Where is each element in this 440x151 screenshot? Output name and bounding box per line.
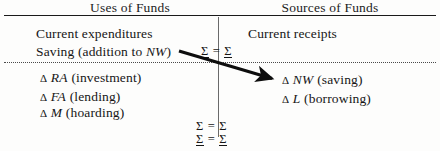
saving-label-symbol: NW [146, 44, 167, 59]
delta-icon: Δ [282, 93, 289, 105]
sigma-equation-top: Σ=Σ [201, 45, 232, 58]
list-item: Δ L (borrowing) [282, 91, 371, 107]
saving-label-suffix: ) [166, 44, 171, 59]
delta-icon: Δ [40, 72, 47, 84]
right-current-receipts-label: Current receipts [248, 26, 337, 41]
list-item: Δ NW (saving) [282, 72, 363, 88]
item-note: (borrowing) [304, 91, 371, 106]
uses-of-funds-header: Uses of Funds [40, 0, 220, 15]
item-symbol: NW [293, 72, 314, 87]
sigma-right: Σ [219, 133, 227, 146]
list-item: Δ RA (investment) [40, 70, 141, 86]
left-current-expenditures-label: Current expenditures [36, 26, 153, 41]
item-note: (investment) [71, 70, 141, 85]
header-horizontal-rule [4, 15, 436, 16]
relation-sign: = [204, 133, 220, 146]
item-symbol: L [293, 91, 301, 106]
sigma-equation-bottom-second: Σ=Σ [196, 133, 227, 146]
sigma-left: Σ [201, 45, 209, 58]
middle-dotted-rule [4, 62, 436, 63]
item-note: (lending) [70, 89, 121, 104]
list-item: Δ FA (lending) [40, 89, 121, 105]
sigma-right: Σ [219, 119, 227, 133]
list-item: Δ M (hoarding) [40, 105, 124, 121]
delta-icon: Δ [282, 74, 289, 86]
delta-icon: Δ [40, 91, 47, 103]
item-symbol: FA [51, 89, 66, 104]
delta-icon: Δ [40, 107, 47, 119]
sigma-left: Σ [196, 119, 204, 133]
left-saving-label: Saving (addition to NW) [36, 44, 171, 59]
sources-and-uses-of-funds-diagram: Uses of Funds Sources of Funds Current e… [0, 0, 440, 151]
item-note: (saving) [317, 72, 362, 87]
relation-sign: = [209, 45, 225, 58]
sigma-left: Σ [196, 133, 204, 146]
sources-of-funds-header: Sources of Funds [240, 0, 420, 15]
item-note: (hoarding) [66, 105, 124, 120]
sigma-right: Σ [224, 45, 232, 58]
item-symbol: M [51, 105, 63, 120]
item-symbol: RA [51, 70, 68, 85]
saving-label-prefix: Saving (addition to [36, 44, 146, 59]
